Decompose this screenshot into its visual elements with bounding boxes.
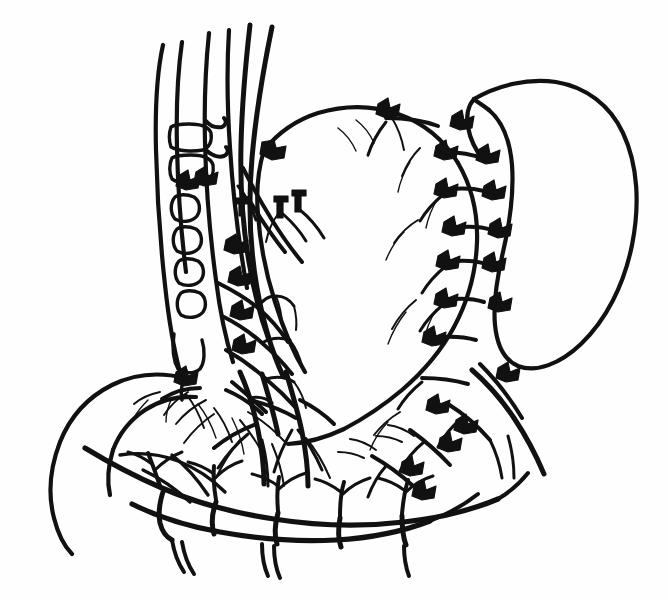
anatomical-line-drawing	[0, 0, 668, 600]
figure-canvas	[0, 0, 668, 600]
background	[0, 0, 668, 600]
